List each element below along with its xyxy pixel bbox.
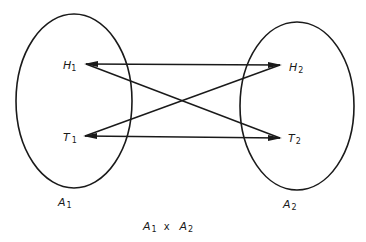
- edge-t1-t2: [85, 136, 280, 138]
- set-a2-ellipse: [240, 22, 354, 190]
- edge-h1-h2: [86, 64, 280, 65]
- product-caption: A1xA2: [142, 220, 193, 234]
- cartesian-product-diagram: H1 T1 H2 T2 A1 A2 A1xA2: [0, 0, 366, 242]
- edge-t1-h2: [85, 65, 280, 136]
- element-t2-label: T2: [288, 132, 301, 146]
- set-a2-label: A2: [282, 198, 297, 212]
- set-a1-ellipse: [16, 14, 132, 188]
- element-t1-label: T1: [63, 131, 77, 145]
- element-h2-label: H2: [289, 61, 303, 75]
- element-h1-label: H1: [63, 59, 76, 73]
- set-a1-label: A1: [57, 196, 72, 210]
